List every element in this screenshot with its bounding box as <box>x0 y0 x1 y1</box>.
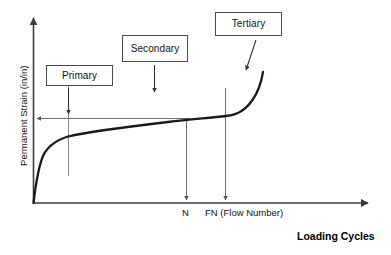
chart-plot-area <box>0 0 391 255</box>
flow-number-chart: Primary Secondary Tertiary N FN (Flow Nu… <box>0 0 391 255</box>
annotation-box-secondary: Secondary <box>122 35 188 62</box>
tertiary-callout-arrow <box>246 40 256 70</box>
x-axis-title: Loading Cycles <box>297 231 375 242</box>
x-tick-label-flow-number: FN (Flow Number) <box>205 208 283 218</box>
annotation-box-primary: Primary <box>46 65 113 86</box>
annotation-box-tertiary: Tertiary <box>215 12 282 36</box>
permanent-strain-curve <box>34 72 264 203</box>
x-tick-label-n: N <box>182 208 189 218</box>
y-axis-title: Permanent Strain (in/in) <box>19 36 29 196</box>
